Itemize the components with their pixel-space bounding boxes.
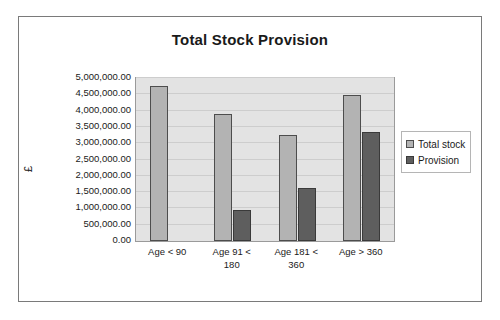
legend-label: Total stock bbox=[418, 139, 465, 150]
bar-group bbox=[201, 78, 266, 241]
x-axis-tick-labels: Age < 90Age 91 <180Age 181 <360Age > 360 bbox=[135, 245, 393, 291]
y-axis-tick: 3,000,000.00 bbox=[41, 137, 131, 147]
y-axis-tick: 1,500,000.00 bbox=[41, 186, 131, 196]
bar-provision[interactable] bbox=[298, 188, 316, 241]
bar-total-stock[interactable] bbox=[150, 86, 168, 241]
chart-legend: Total stockProvision bbox=[401, 131, 471, 173]
chart-frame: Total Stock Provision £ 5,000,000.004,50… bbox=[18, 16, 482, 302]
y-axis-tick: 2,500,000.00 bbox=[41, 154, 131, 164]
bar-group bbox=[265, 78, 330, 241]
y-axis-tick: 3,500,000.00 bbox=[41, 121, 131, 131]
bar-total-stock[interactable] bbox=[343, 95, 361, 241]
legend-swatch-icon bbox=[406, 156, 414, 164]
y-axis-tick: 1,000,000.00 bbox=[41, 202, 131, 212]
x-axis-tick: Age > 360 bbox=[323, 245, 400, 258]
y-axis-tick: 500,000.00 bbox=[41, 219, 131, 229]
chart-title: Total Stock Provision bbox=[19, 31, 481, 48]
y-axis-title: £ bbox=[22, 166, 34, 172]
bar-provision[interactable] bbox=[233, 210, 251, 241]
bar-total-stock[interactable] bbox=[214, 114, 232, 241]
y-axis-tick: 4,000,000.00 bbox=[41, 105, 131, 115]
legend-label: Provision bbox=[418, 155, 459, 166]
bar-group bbox=[136, 78, 201, 241]
y-axis-tick: 2,000,000.00 bbox=[41, 170, 131, 180]
y-axis-tick: 0.00 bbox=[41, 235, 131, 245]
bar-group bbox=[330, 78, 395, 241]
y-axis-tick: 5,000,000.00 bbox=[41, 72, 131, 82]
bar-total-stock[interactable] bbox=[279, 135, 297, 241]
legend-swatch-icon bbox=[406, 140, 414, 148]
plot-area bbox=[135, 77, 395, 242]
bar-provision[interactable] bbox=[362, 132, 380, 241]
y-axis-tick-labels: 5,000,000.004,500,000.004,000,000.003,50… bbox=[41, 71, 131, 246]
legend-item[interactable]: Provision bbox=[406, 152, 465, 168]
legend-item[interactable]: Total stock bbox=[406, 136, 465, 152]
y-axis-tick: 4,500,000.00 bbox=[41, 88, 131, 98]
x-axis-tick-line: 360 bbox=[258, 258, 335, 271]
x-axis-tick-line: Age > 360 bbox=[323, 245, 400, 258]
